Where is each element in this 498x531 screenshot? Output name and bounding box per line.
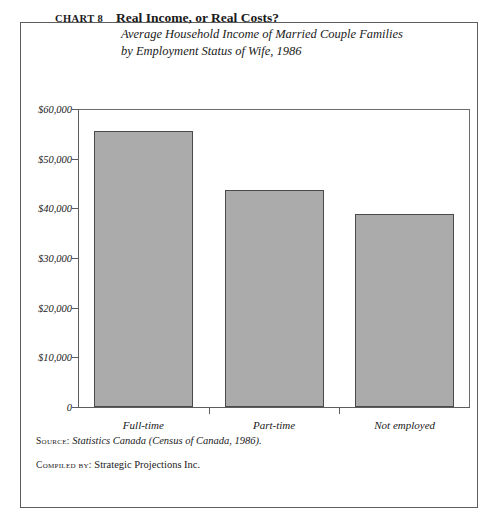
x-axis-tick-label: Part-time bbox=[253, 419, 295, 431]
compiled-by-value: Strategic Projections Inc. bbox=[94, 459, 200, 470]
x-axis-tick bbox=[339, 407, 340, 414]
y-axis-tick bbox=[72, 407, 79, 408]
x-axis-tick-label: Full-time bbox=[123, 419, 164, 431]
chart-title: Real Income, or Real Costs? bbox=[116, 10, 279, 26]
y-axis-tick-label: $50,000 bbox=[0, 153, 72, 164]
source-value: Statistics Canada (Census of Canada, 198… bbox=[72, 435, 261, 446]
chart-subtitle-line-2: by Employment Status of Wife, 1986 bbox=[121, 43, 445, 60]
compiled-by-label: Compiled by: bbox=[36, 460, 92, 470]
y-axis-tick-label: $40,000 bbox=[0, 203, 72, 214]
y-axis-tick bbox=[72, 109, 79, 110]
bar-not-employed bbox=[355, 214, 454, 407]
bar-full-time bbox=[94, 131, 193, 407]
y-axis-tick-label: $30,000 bbox=[0, 253, 72, 264]
y-axis-tick bbox=[72, 208, 79, 209]
chart-plot-area: 0$10,000$20,000$30,000$40,000$50,000$60,… bbox=[58, 87, 452, 409]
chart-subtitle-line-1: Average Household Income of Married Coup… bbox=[121, 26, 445, 43]
y-axis-tick-label: $60,000 bbox=[0, 104, 72, 115]
y-axis-tick bbox=[72, 258, 79, 259]
y-axis-tick-label: $20,000 bbox=[0, 302, 72, 313]
source-label: Source: bbox=[36, 436, 70, 446]
chart-number-label: CHART 8 bbox=[55, 12, 103, 24]
bar-part-time bbox=[225, 190, 324, 407]
x-axis-line bbox=[78, 407, 470, 408]
y-axis-tick bbox=[72, 357, 79, 358]
chart-header: CHART 8 Real Income, or Real Costs? Aver… bbox=[55, 10, 445, 59]
x-axis-tick bbox=[209, 407, 210, 414]
x-axis-tick-label: Not employed bbox=[374, 419, 435, 431]
compiled-by-line: Compiled by: Strategic Projections Inc. bbox=[36, 458, 436, 472]
source-line: Source: Statistics Canada (Census of Can… bbox=[36, 434, 436, 448]
chart-footer: Source: Statistics Canada (Census of Can… bbox=[36, 434, 436, 482]
y-axis-tick-label: $10,000 bbox=[0, 352, 72, 363]
y-axis-tick-label: 0 bbox=[0, 402, 72, 413]
y-axis-tick bbox=[72, 159, 79, 160]
y-axis-tick bbox=[72, 308, 79, 309]
